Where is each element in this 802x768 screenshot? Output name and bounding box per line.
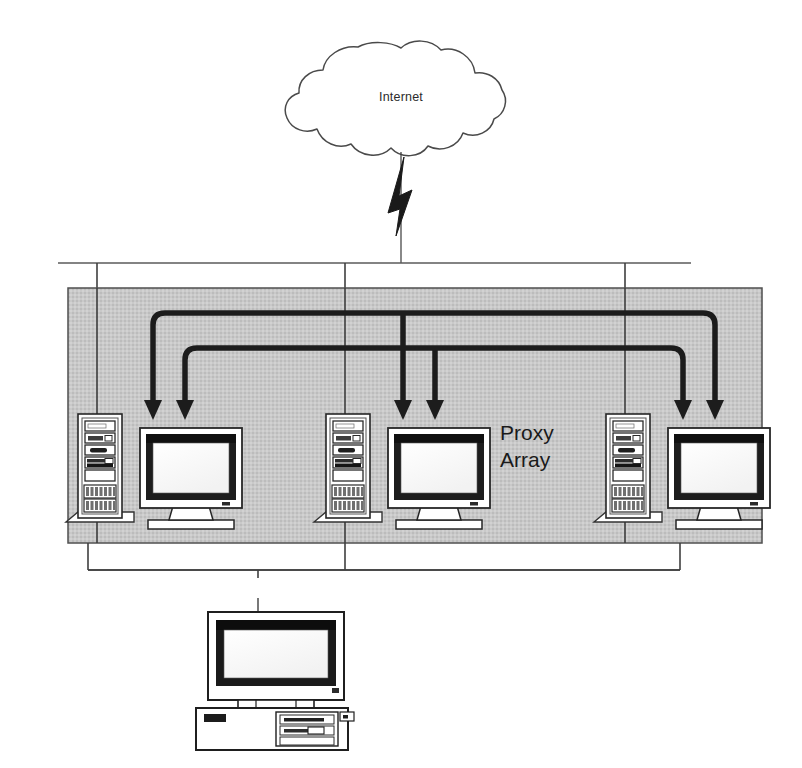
lightning-bolt-icon	[388, 152, 412, 263]
zone-label-line1: Proxy	[500, 421, 554, 444]
diagram-canvas: Internet	[0, 0, 802, 768]
client-workstation[interactable]	[196, 612, 354, 750]
downstream-bus	[88, 543, 680, 612]
cloud-label: Internet	[379, 90, 423, 104]
network-diagram: Internet	[0, 0, 802, 768]
zone-label-line2: Array	[500, 448, 551, 471]
internet-cloud: Internet	[285, 41, 505, 156]
